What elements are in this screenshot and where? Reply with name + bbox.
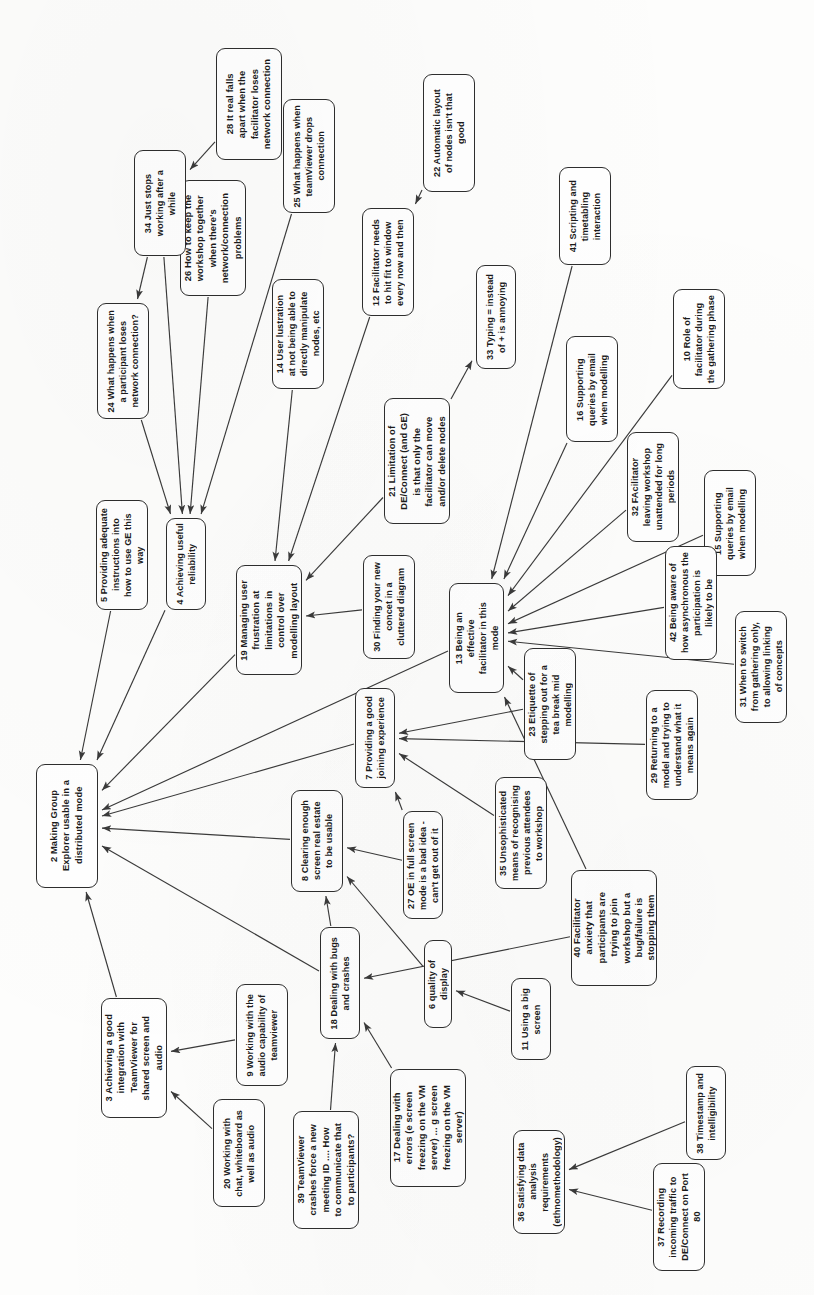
concept-node-label: 26 How to keep the workshop together whe…	[182, 193, 244, 283]
concept-node-label: 19 Managing user frustration at limitati…	[238, 580, 300, 661]
concept-node-33[interactable]: 33 Typing = instead of + is annoying	[476, 265, 516, 369]
concept-node-label: 7 Providing a good joining experience	[363, 696, 387, 780]
edge-21-to-33	[451, 361, 472, 399]
edge-34-to-4	[164, 257, 183, 514]
concept-node-label: 40 Facilitator anxiety that participants…	[571, 892, 658, 963]
concept-map-canvas: 2 Making Group Explorer usable in a dist…	[0, 0, 814, 1295]
concept-node-label: 35 Unsophisticated means of recognising …	[497, 785, 545, 881]
concept-node-label: 37 Recording incoming traffic to DE/Conn…	[655, 1173, 703, 1261]
concept-node-label: 8 Clearing enough screen real estate to …	[299, 800, 335, 881]
concept-node-label: 10 Role of facilitator during the gather…	[681, 295, 717, 383]
concept-node-19[interactable]: 19 Managing user frustration at limitati…	[236, 565, 302, 675]
concept-node-label: 15 Supporting queries by email when mode…	[712, 487, 748, 560]
edge-35-to-7	[399, 754, 494, 816]
edge-3-to-2	[86, 892, 116, 997]
concept-node-label: 29 Returning to a model and trying to un…	[648, 702, 696, 788]
concept-node-4[interactable]: 4 Achieving useful reliability	[166, 518, 206, 610]
concept-node-label: 9 Working with the audio capability of t…	[244, 994, 280, 1076]
concept-node-26[interactable]: 26 How to keep the workshop together whe…	[180, 180, 246, 296]
concept-node-label: 4 Achieving useful reliability	[174, 523, 198, 605]
concept-node-label: 3 Achieving a good integration with Team…	[103, 1014, 165, 1101]
concept-node-label: 21 Limitation of DE/Connect (and GE) is …	[386, 413, 448, 510]
edge-30-to-19	[306, 610, 362, 616]
edge-39-to-18	[331, 1043, 336, 1110]
edge-14-to-19	[275, 390, 292, 561]
concept-node-40[interactable]: 40 Facilitator anxiety that participants…	[571, 870, 657, 986]
concept-node-32[interactable]: 32 FAcilitator leaving workshop unattend…	[627, 432, 679, 542]
concept-node-17[interactable]: 17 Dealing with errors (e screen freezin…	[390, 1069, 466, 1187]
concept-node-22[interactable]: 22 Automatic layout of nodes isn't that …	[423, 74, 475, 192]
concept-node-20[interactable]: 20 Working with chat, whiteboard as well…	[213, 1099, 265, 1207]
edge-32-to-13	[508, 510, 626, 611]
concept-node-label: 42 Being aware of how asynchronous the p…	[667, 552, 715, 653]
edge-11-to-6	[456, 991, 510, 1011]
concept-node-34[interactable]: 34 Just stops working after a while	[134, 150, 186, 256]
concept-node-42[interactable]: 42 Being aware of how asynchronous the p…	[665, 546, 717, 660]
concept-node-9[interactable]: 9 Working with the audio capability of t…	[236, 984, 288, 1086]
concept-node-label: 6 quality of display	[426, 943, 450, 1025]
concept-node-21[interactable]: 21 Limitation of DE/Connect (and GE) is …	[384, 398, 450, 524]
concept-node-13[interactable]: 13 Being an effective facilitator in thi…	[449, 583, 504, 693]
concept-node-27[interactable]: 27 OE in full screen mode is a bad idea …	[403, 811, 443, 919]
concept-node-31[interactable]: 31 When to switch from gathering only, t…	[735, 611, 787, 723]
concept-node-11[interactable]: 11 Using a big screen	[511, 978, 551, 1060]
concept-node-label: 17 Dealing with errors (e screen freezin…	[391, 1085, 465, 1170]
concept-node-label: 22 Automatic layout of nodes isn't that …	[431, 89, 467, 177]
concept-node-28[interactable]: 28 It real falls apart when the facilita…	[216, 48, 282, 160]
edge-42-to-13	[508, 607, 664, 633]
concept-node-10[interactable]: 10 Role of facilitator during the gather…	[673, 289, 725, 389]
edge-17-to-18	[364, 1023, 392, 1069]
edge-5-to-2	[80, 611, 110, 760]
concept-node-24[interactable]: 24 What happens when a participant loses…	[97, 303, 149, 419]
edge-9-to-3	[171, 1040, 235, 1052]
concept-node-label: 20 Working with chat, whiteboard as well…	[221, 1110, 257, 1197]
concept-node-38[interactable]: 38 Timestamp and intelligibility	[686, 1066, 726, 1160]
concept-node-30[interactable]: 30 Finding your new concet in a cluttere…	[363, 555, 415, 659]
concept-node-37[interactable]: 37 Recording incoming traffic to DE/Conn…	[653, 1163, 705, 1271]
concept-node-label: 27 OE in full screen mode is a bad idea …	[405, 821, 441, 910]
concept-node-8[interactable]: 8 Clearing enough screen real estate to …	[291, 790, 343, 892]
concept-node-label: 36 Satisfying data analysis requirements…	[515, 1137, 563, 1227]
concept-node-label: 24 What happens when a participant loses…	[105, 310, 141, 413]
concept-node-label: 13 Being an effective facilitator in thi…	[453, 602, 501, 674]
concept-node-36[interactable]: 36 Satisfying data analysis requirements…	[513, 1130, 565, 1234]
concept-node-label: 39 TeamViewer crashes force a new meetin…	[295, 1123, 357, 1217]
edge-8-to-2	[102, 828, 290, 839]
edge-20-to-3	[171, 1092, 212, 1129]
concept-node-label: 12 Facilitator needs to hit fit to windo…	[370, 219, 406, 306]
concept-node-16[interactable]: 16 Supporting queries by email when mode…	[566, 336, 618, 442]
concept-node-25[interactable]: 25 What happens when teamViewer drops co…	[283, 99, 335, 213]
concept-node-39[interactable]: 39 TeamViewer crashes force a new meetin…	[293, 1111, 359, 1229]
concept-node-6[interactable]: 6 quality of display	[424, 940, 452, 1028]
edge-28-to-34	[190, 142, 215, 170]
edge-23-to-13	[508, 666, 523, 680]
edge-26-to-4	[190, 297, 208, 514]
edge-19-to-2	[102, 655, 235, 791]
concept-node-label: 14 User lustration at not being able to …	[274, 291, 322, 376]
concept-node-label: 23 Etiquette of stepping out for a tea b…	[526, 665, 574, 744]
edge-4-to-2	[97, 610, 165, 760]
concept-node-3[interactable]: 3 Achieving a good integration with Team…	[101, 998, 167, 1118]
edge-23-to-7	[399, 709, 523, 733]
concept-node-label: 28 It real falls apart when the facilita…	[224, 59, 274, 149]
concept-node-41[interactable]: 41 Scripting and timetabling interaction	[559, 167, 611, 265]
edge-29-to-7	[399, 739, 645, 745]
concept-node-label: 31 When to switch from gathering only, t…	[737, 622, 785, 711]
concept-node-2[interactable]: 2 Making Group Explorer usable in a dist…	[36, 764, 98, 888]
edge-18-to-8	[326, 896, 331, 926]
concept-node-label: 25 What happens when teamViewer drops co…	[291, 105, 327, 208]
concept-node-14[interactable]: 14 User lustration at not being able to …	[272, 279, 324, 389]
concept-node-29[interactable]: 29 Returning to a model and trying to un…	[646, 690, 698, 800]
concept-node-label: 38 Timestamp and intelligibility	[694, 1073, 718, 1154]
concept-node-label: 5 Providing adequate instructions into h…	[98, 508, 146, 602]
concept-node-35[interactable]: 35 Unsophisticated means of recognising …	[495, 777, 547, 889]
concept-node-label: 41 Scripting and timetabling interaction	[567, 180, 603, 252]
edge-37-to-36	[569, 1190, 652, 1211]
concept-node-23[interactable]: 23 Etiquette of stepping out for a tea b…	[524, 648, 576, 760]
edge-18-to-2	[102, 846, 319, 971]
concept-node-12[interactable]: 12 Facilitator needs to hit fit to windo…	[362, 208, 414, 316]
concept-node-5[interactable]: 5 Providing adequate instructions into h…	[96, 500, 148, 610]
edge-22-to-12	[415, 190, 422, 204]
concept-node-18[interactable]: 18 Dealing with bugs and crashes	[320, 927, 360, 1039]
concept-node-7[interactable]: 7 Providing a good joining experience	[355, 688, 395, 788]
